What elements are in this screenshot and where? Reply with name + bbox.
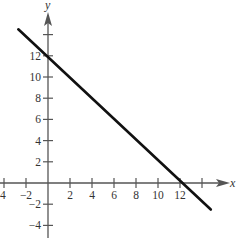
x-tick-label: 12 bbox=[174, 189, 186, 201]
y-axis-label: y bbox=[44, 0, 51, 12]
x-tick-label: 8 bbox=[133, 189, 139, 201]
x-tick-label: 10 bbox=[152, 189, 164, 201]
y-tick-label: 10 bbox=[30, 71, 42, 83]
y-tick-label: 12 bbox=[30, 50, 42, 62]
y-tick-label: 8 bbox=[35, 92, 41, 104]
x-tick-label: 6 bbox=[111, 189, 117, 201]
y-tick-label: 2 bbox=[35, 156, 41, 168]
x-tick-label: 2 bbox=[67, 189, 73, 201]
x-tick-label: 4 bbox=[0, 189, 6, 201]
y-tick-label: 6 bbox=[35, 113, 41, 125]
x-tick-label: 4 bbox=[89, 189, 95, 201]
line-chart: 4−224681012−4−224681012xy bbox=[0, 0, 238, 240]
y-tick-label: 4 bbox=[35, 135, 41, 147]
y-tick-label: −2 bbox=[29, 198, 41, 210]
x-axis-label: x bbox=[229, 176, 236, 190]
y-tick-label: −4 bbox=[29, 219, 41, 231]
